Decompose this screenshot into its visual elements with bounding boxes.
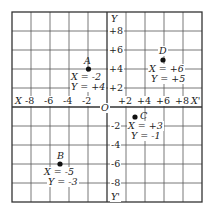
y-tick: +6 bbox=[108, 45, 124, 55]
y-tick: -4 bbox=[110, 140, 121, 150]
y-tick: -8 bbox=[110, 178, 121, 188]
point-d-name: D bbox=[158, 46, 168, 56]
x-tick: -8 bbox=[24, 96, 35, 106]
x-tick: +4 bbox=[136, 96, 152, 106]
y-neg-axis-label: Y' bbox=[110, 192, 121, 202]
x-tick: -4 bbox=[62, 96, 73, 106]
point-a-y: Y = +4 bbox=[70, 82, 106, 92]
x-tick: -2 bbox=[81, 96, 92, 106]
point-d-y: Y = +5 bbox=[150, 74, 186, 84]
x-pos-axis-label: X' bbox=[190, 96, 201, 106]
point-a-name: A bbox=[83, 56, 92, 66]
point-c-y: Y = -1 bbox=[130, 131, 162, 141]
y-tick: -6 bbox=[110, 159, 121, 169]
point-d-dot bbox=[160, 57, 165, 62]
x-tick: +8 bbox=[174, 96, 190, 106]
y-tick: +8 bbox=[108, 26, 124, 36]
point-b-y: Y = -3 bbox=[47, 177, 79, 187]
y-tick: -2 bbox=[110, 121, 121, 131]
x-tick: +2 bbox=[117, 96, 133, 106]
y-tick: +2 bbox=[108, 83, 124, 93]
y-axis-label: Y bbox=[110, 14, 118, 24]
origin-label: O bbox=[100, 103, 110, 113]
point-b-name: B bbox=[56, 151, 65, 161]
y-tick: +4 bbox=[108, 64, 124, 74]
point-c-dot bbox=[132, 114, 137, 119]
x-axis-label: X bbox=[14, 96, 23, 106]
x-tick: -6 bbox=[43, 96, 54, 106]
x-tick: +6 bbox=[155, 96, 171, 106]
